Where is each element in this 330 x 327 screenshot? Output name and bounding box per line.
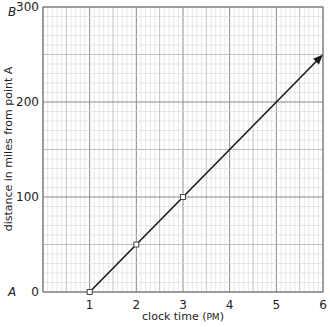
- point-b-label: B: [8, 5, 16, 19]
- y-axis-label: distance in miles from point A: [2, 66, 15, 231]
- x-axis-label: clock time (PM): [142, 310, 224, 323]
- y-tick-label: 300: [16, 0, 39, 14]
- data-point-marker: [134, 242, 139, 247]
- data-point-marker: [181, 195, 186, 200]
- y-tick-label: 0: [31, 285, 39, 299]
- y-axis-ticks: 0100200300: [16, 0, 39, 299]
- graph-paper-grid: [43, 7, 323, 292]
- x-tick-label: 5: [273, 298, 281, 312]
- point-a-label: A: [7, 285, 16, 299]
- x-tick-label: 6: [319, 298, 327, 312]
- y-tick-label: 100: [16, 190, 39, 204]
- distance-time-chart: 0100200300 123456 B A distance in miles …: [0, 0, 330, 327]
- y-tick-label: 200: [16, 95, 39, 109]
- x-tick-label: 1: [86, 298, 94, 312]
- distance-line: [90, 60, 318, 292]
- x-tick-label: 4: [226, 298, 234, 312]
- x-tick-label: 2: [133, 298, 141, 312]
- data-point-marker: [87, 290, 92, 295]
